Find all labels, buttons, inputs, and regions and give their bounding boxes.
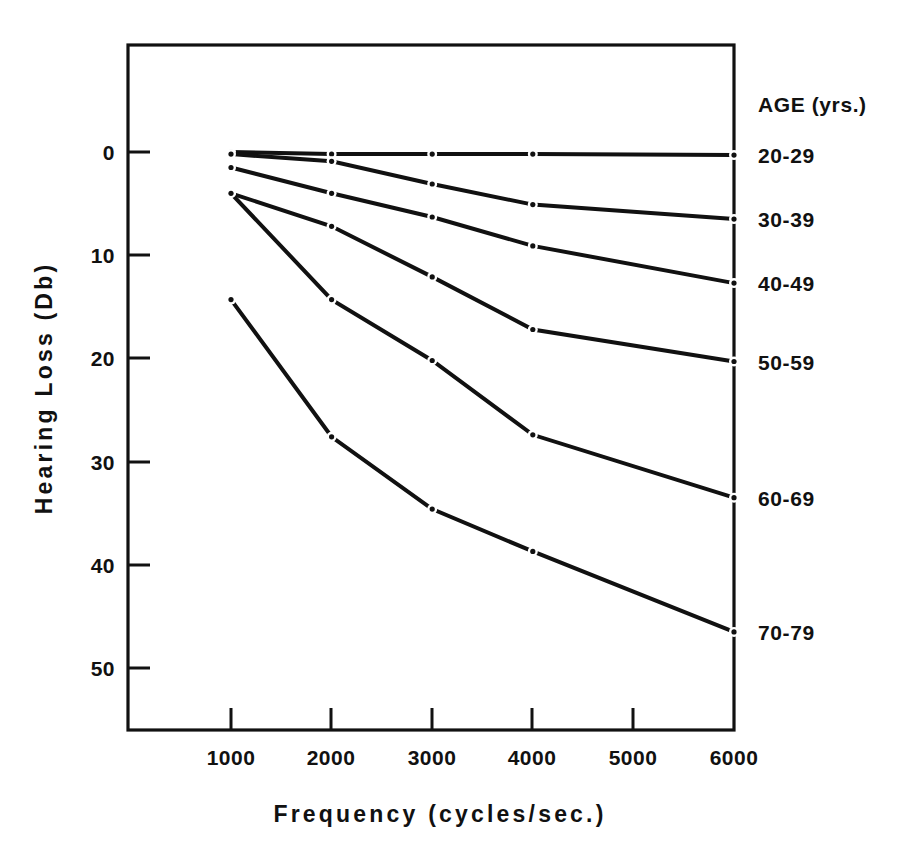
data-point-marker [731, 495, 736, 500]
y-tick-label-10: 10 [91, 244, 115, 267]
data-point-marker [329, 297, 334, 302]
x-tick-label-4000: 4000 [508, 746, 557, 769]
x-tick-label-3000: 3000 [408, 746, 457, 769]
y-tick-label-40: 40 [91, 554, 115, 577]
data-point-marker [329, 152, 334, 157]
legend-title: AGE (yrs.) [758, 93, 867, 116]
data-point-marker [430, 214, 435, 219]
data-point-marker [530, 549, 535, 554]
legend-item-20-29: 20-29 [758, 144, 815, 167]
plot-area-border [128, 45, 734, 730]
data-point-marker [530, 202, 535, 207]
data-point-marker [329, 191, 334, 196]
data-point-marker [430, 507, 435, 512]
data-point-marker [530, 243, 535, 248]
data-point-marker [530, 152, 535, 157]
x-tick-label-6000: 6000 [710, 746, 759, 769]
data-point-marker [530, 327, 535, 332]
y-axis-tick-labels: 0 10 20 30 40 50 [91, 141, 115, 680]
x-axis-title: Frequency (cycles/sec.) [273, 801, 606, 827]
data-point-marker [430, 274, 435, 279]
y-tick-label-0: 0 [103, 141, 115, 164]
data-point-marker [430, 152, 435, 157]
data-point-marker [430, 181, 435, 186]
y-tick-label-20: 20 [91, 347, 115, 370]
data-point-marker [731, 359, 736, 364]
data-point-marker [228, 165, 233, 170]
data-point-marker [228, 297, 233, 302]
legend-item-60-69: 60-69 [758, 487, 815, 510]
legend-labels: 20-2930-3940-4950-5960-6970-79 [758, 144, 815, 644]
data-point-marker [329, 224, 334, 229]
data-point-marker [329, 434, 334, 439]
data-point-marker [731, 153, 736, 158]
data-point-marker [228, 191, 233, 196]
x-tick-label-1000: 1000 [207, 746, 256, 769]
y-tick-label-30: 30 [91, 451, 115, 474]
x-tick-label-2000: 2000 [307, 746, 356, 769]
line-chart: 0 10 20 30 40 50 1000 2000 3000 4000 500… [0, 0, 906, 860]
legend-item-50-59: 50-59 [758, 351, 815, 374]
data-point-marker [530, 432, 535, 437]
data-point-marker [228, 152, 233, 157]
data-point-marker [731, 217, 736, 222]
data-point-marker [430, 358, 435, 363]
legend-item-70-79: 70-79 [758, 621, 815, 644]
chart-figure: 0 10 20 30 40 50 1000 2000 3000 4000 500… [0, 0, 906, 860]
x-tick-label-5000: 5000 [609, 746, 658, 769]
data-point-marker [731, 629, 736, 634]
x-axis-tick-labels: 1000 2000 3000 4000 5000 6000 [207, 746, 759, 769]
legend-item-30-39: 30-39 [758, 208, 815, 231]
y-axis-title: Hearing Loss (Db) [31, 262, 57, 514]
y-tick-label-50: 50 [91, 657, 115, 680]
legend-item-40-49: 40-49 [758, 272, 815, 295]
data-point-marker [329, 159, 334, 164]
data-point-marker [731, 281, 736, 286]
